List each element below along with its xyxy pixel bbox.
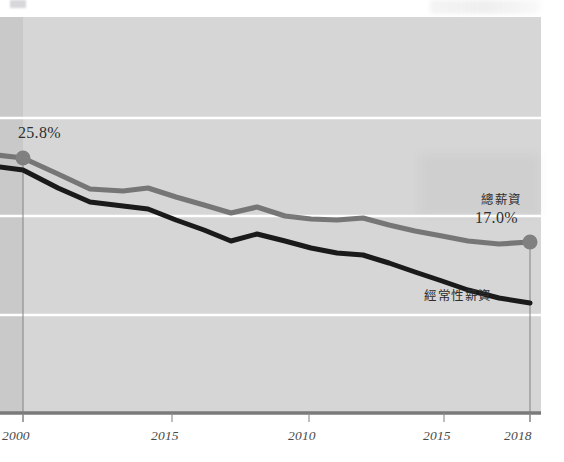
- x-axis-label-1: 2015: [151, 428, 179, 444]
- end-value-label: 17.0%: [475, 209, 518, 227]
- x-axis-label-2: 2010: [288, 428, 316, 444]
- chart-container: 25.8% 總薪資 17.0% 經常性薪資 200020152010201520…: [0, 0, 564, 462]
- chart-svg: [0, 0, 564, 462]
- end-dot: [523, 235, 538, 250]
- x-axis-label-4: 2018: [504, 428, 532, 444]
- series-group: [0, 155, 530, 303]
- x-axis-label-0: 2000: [2, 428, 30, 444]
- start-dot: [16, 151, 31, 166]
- start-value-label: 25.8%: [18, 124, 61, 142]
- x-axis-label-3: 2015: [423, 428, 451, 444]
- series-line-regular: [0, 167, 530, 303]
- series-label-regular: 經常性薪資: [424, 285, 492, 304]
- series-label-total: 總薪資: [481, 189, 522, 208]
